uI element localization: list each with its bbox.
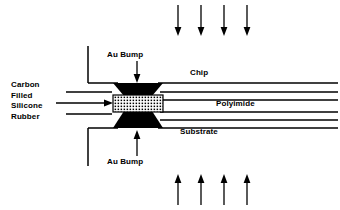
bottom-force-arrow-4	[244, 174, 251, 205]
bottom-force-arrow-group	[175, 174, 251, 205]
top-force-arrow-4	[244, 5, 251, 36]
label-carbon-line-4: Rubber	[11, 112, 42, 123]
label-polyimide: Polyimide	[216, 99, 255, 110]
label-carbon-line-1: Carbon	[11, 80, 42, 91]
au-bump-top-shape	[113, 83, 163, 96]
diagram-svg	[0, 0, 340, 210]
label-carbon-filled-silicone-rubber: Carbon Filled Silicone Rubber	[11, 80, 42, 122]
label-chip: Chip	[190, 68, 208, 79]
label-carbon-line-3: Silicone	[11, 101, 42, 112]
top-force-arrow-group	[175, 5, 251, 36]
top-force-arrow-1	[175, 5, 182, 36]
figure-canvas: Carbon Filled Silicone Rubber Au Bump Au…	[0, 0, 340, 210]
label-au-bump-bottom: Au Bump	[107, 157, 143, 168]
label-au-bump-top: Au Bump	[107, 50, 143, 61]
au-bump-bottom-pointer-arrow	[134, 130, 141, 156]
polyimide-lines	[66, 92, 338, 120]
top-force-arrow-3	[221, 5, 228, 36]
au-bump-bottom-shape	[113, 111, 163, 128]
label-substrate: Substrate	[180, 127, 218, 138]
carbon-rubber-block	[113, 95, 163, 112]
au-bump-top-pointer-arrow	[134, 61, 141, 83]
carbon-rubber-pointer-arrow	[56, 100, 113, 107]
bottom-force-arrow-2	[198, 174, 205, 205]
top-force-arrow-2	[198, 5, 205, 36]
label-carbon-line-2: Filled	[11, 91, 42, 102]
bottom-force-arrow-3	[221, 174, 228, 205]
bottom-force-arrow-1	[175, 174, 182, 205]
